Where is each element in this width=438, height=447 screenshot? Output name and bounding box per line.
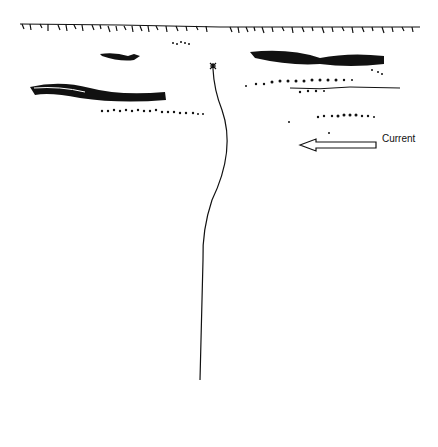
far-bank xyxy=(20,24,420,33)
weed-bed-right-1 xyxy=(245,51,400,93)
weed-bed-left-1 xyxy=(30,84,204,115)
fish xyxy=(100,53,140,60)
current-arrow-icon xyxy=(300,139,376,151)
fishing-diagram xyxy=(0,0,438,447)
gravel-top xyxy=(172,41,190,45)
weed-bed-right-2 xyxy=(288,114,375,135)
fly-icon xyxy=(210,63,216,69)
current-label: Current xyxy=(382,133,415,144)
fishing-line xyxy=(200,69,227,380)
